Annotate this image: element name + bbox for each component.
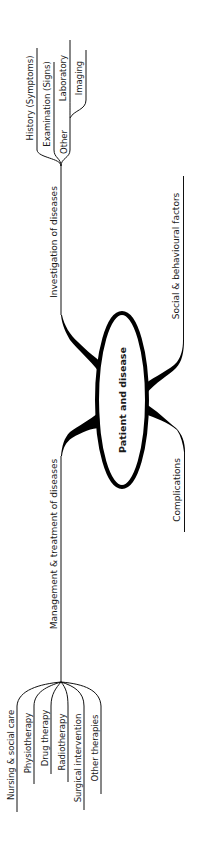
central-node: Patient and disease xyxy=(97,313,147,487)
leaf-history: History (Symptoms) xyxy=(25,56,35,141)
leaf-physiotherapy: Physiotherapy xyxy=(23,713,33,774)
branch-label-social: Social & behavioural factors xyxy=(171,192,181,319)
central-node-label: Patient and disease xyxy=(117,347,128,453)
branch-management: Management & treatment of diseases Nursi… xyxy=(6,456,101,812)
leaf-imaging: Imaging xyxy=(74,61,84,96)
leaf-drug-therapy: Drug therapy xyxy=(40,710,50,767)
branch-label-investigation: Investigation of diseases xyxy=(49,186,59,298)
branch-social: Social & behavioural factors xyxy=(171,176,184,340)
leaf-radiotherapy: Radiotherapy xyxy=(57,714,67,771)
leaf-surgical: Surgical intervention xyxy=(73,714,83,803)
leaf-examination: Examination (Signs) xyxy=(42,61,52,146)
mind-map-canvas: Patient and disease Investigation of dis… xyxy=(0,0,203,847)
branch-label-complications: Complications xyxy=(172,458,182,522)
branch-investigation: Investigation of diseases History (Sympt… xyxy=(25,40,86,315)
branch-label-management: Management & treatment of diseases xyxy=(49,458,59,629)
leaf-other-therapies: Other therapies xyxy=(90,714,100,781)
leaf-laboratory: Laboratory xyxy=(58,55,68,101)
leaf-other: Other xyxy=(59,129,69,154)
leaf-nursing: Nursing & social care xyxy=(6,710,16,800)
branch-complications: Complications xyxy=(172,452,185,532)
